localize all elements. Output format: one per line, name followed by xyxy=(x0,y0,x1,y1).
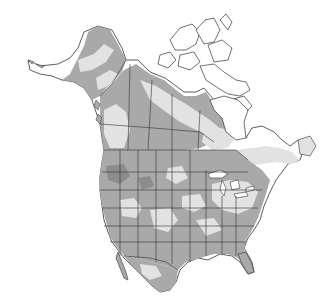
newfoundland xyxy=(298,136,316,156)
north-america-range-map xyxy=(0,0,330,300)
